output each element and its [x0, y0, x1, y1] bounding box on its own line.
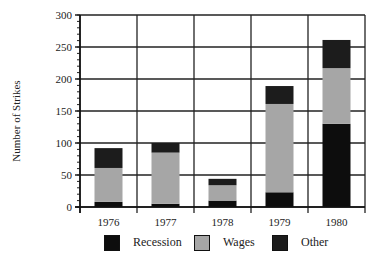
- y-tick-label: 0: [67, 201, 73, 213]
- bar-wages-1977: [152, 153, 180, 204]
- bar-recession-1978: [209, 201, 237, 207]
- y-tick-label: 200: [56, 73, 73, 85]
- legend-label-other: Other: [301, 235, 328, 250]
- y-tick-label: 250: [56, 41, 73, 53]
- bar-wages-1978: [209, 185, 237, 200]
- y-tick-labels: 050100150200250300: [56, 9, 73, 213]
- bar-other-1976: [95, 148, 123, 168]
- bar-wages-1979: [266, 104, 294, 192]
- y-axis-label: Number of Strikes: [6, 111, 26, 131]
- x-tick-label: 1977: [155, 216, 178, 228]
- y-tick-label: 100: [56, 137, 73, 149]
- bars: [95, 40, 351, 207]
- legend-label-recession: Recession: [133, 235, 182, 250]
- y-axis-label-text: Number of Strikes: [10, 80, 22, 161]
- bar-wages-1980: [323, 68, 351, 124]
- legend-label-wages: Wages: [223, 235, 255, 250]
- bar-wages-1976: [95, 168, 123, 202]
- bar-other-1980: [323, 40, 351, 68]
- y-tick-label: 150: [56, 105, 73, 117]
- x-tick-label: 1979: [269, 216, 292, 228]
- stacked-bar-chart: 050100150200250300 19761977197819791980: [0, 0, 380, 270]
- legend-swatch-other: [272, 235, 288, 251]
- x-tick-label: 1978: [212, 216, 235, 228]
- x-tick-labels: 19761977197819791980: [98, 216, 349, 228]
- y-tick-label: 300: [56, 9, 73, 21]
- bar-other-1979: [266, 86, 294, 104]
- legend-swatch-wages: [194, 235, 210, 251]
- bar-other-1978: [209, 179, 237, 185]
- bar-other-1977: [152, 143, 180, 153]
- x-tick-label: 1976: [98, 216, 121, 228]
- x-tick-label: 1980: [326, 216, 349, 228]
- bar-recession-1980: [323, 124, 351, 207]
- legend-swatch-recession: [104, 235, 120, 251]
- bar-recession-1979: [266, 192, 294, 207]
- y-tick-label: 50: [61, 169, 73, 181]
